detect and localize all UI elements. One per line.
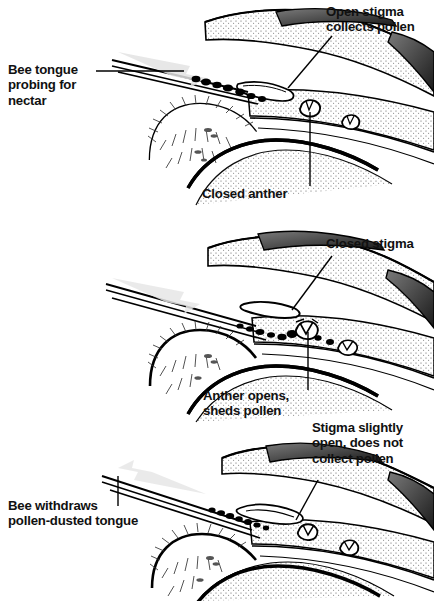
anther-spent-2	[340, 540, 358, 555]
pollination-figure: Open stigma collects pollen Bee tongue p…	[0, 0, 434, 601]
motion-arrow-out	[118, 460, 206, 494]
label-anther-opens: Anther opens, sheds pollen	[203, 388, 289, 419]
label-bee-withdraws: Bee withdraws pollen-dusted tongue	[8, 498, 138, 529]
label-open-stigma: Open stigma collects pollen	[326, 4, 415, 35]
label-closed-anther: Closed anther	[202, 186, 287, 201]
label-bee-tongue: Bee tongue probing for nectar	[8, 62, 78, 108]
anther-closed-2	[342, 115, 359, 129]
bee-head	[148, 321, 256, 394]
label-closed-stigma: Closed stigma	[326, 236, 414, 251]
label-stigma-slightly-open: Stigma slightly open, does not collect p…	[312, 420, 403, 466]
leader-stigma-slightly-open	[296, 480, 318, 520]
stigma-closed	[240, 302, 299, 318]
anther-open-2	[338, 340, 357, 355]
anther-spent-1	[298, 524, 317, 540]
